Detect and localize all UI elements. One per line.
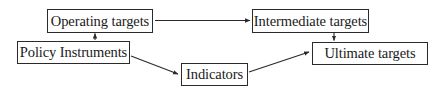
node-label: Indicators xyxy=(186,66,243,83)
node-ultimate-targets: Ultimate targets xyxy=(312,42,428,65)
node-label: Intermediate targets xyxy=(254,13,367,30)
arrow-policy-to-indicators xyxy=(131,56,178,74)
node-label: Ultimate targets xyxy=(324,45,415,62)
node-policy-instruments: Policy Instruments xyxy=(17,41,130,64)
node-label: Policy Instruments xyxy=(20,44,127,61)
node-label: Operating targets xyxy=(51,13,149,30)
arrow-indicators-to-ultimate xyxy=(249,52,309,72)
node-indicators: Indicators xyxy=(181,63,248,86)
node-operating-targets: Operating targets xyxy=(47,9,153,33)
node-intermediate-targets: Intermediate targets xyxy=(252,9,369,33)
